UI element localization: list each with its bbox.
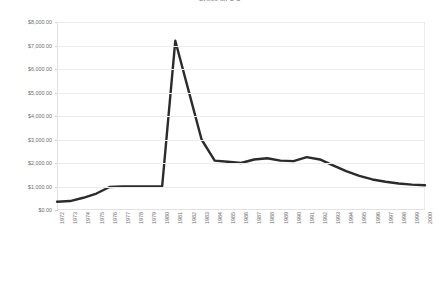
x-tick-label: 1974 xyxy=(85,212,91,224)
x-tick-label: 1984 xyxy=(217,212,223,224)
x-tick-label: 1985 xyxy=(230,212,236,224)
y-tick-label: $6,000.00 xyxy=(28,66,52,72)
gridline xyxy=(57,163,425,164)
x-tick-label: 1995 xyxy=(361,212,367,224)
line-chart: Gross MFG $ $8,000.00$7,000.00$6,000.00$… xyxy=(0,0,439,282)
x-tick-label: 1991 xyxy=(309,212,315,224)
y-tick-label: $0.00 xyxy=(39,207,53,213)
x-tick-label: 1993 xyxy=(335,212,341,224)
x-tick-label: 1980 xyxy=(164,212,170,224)
x-tick-label: 1994 xyxy=(348,212,354,224)
x-tick-label: 2000 xyxy=(427,212,433,224)
gridline xyxy=(57,46,425,47)
y-tick-label: $3,000.00 xyxy=(28,137,52,143)
x-tick-label: 1972 xyxy=(59,212,65,224)
x-tick-label: 1987 xyxy=(256,212,262,224)
y-tick-label: $1,000.00 xyxy=(28,184,52,190)
x-tick-label: 1996 xyxy=(375,212,381,224)
series-line xyxy=(57,41,425,202)
x-tick-label: 1988 xyxy=(269,212,275,224)
x-axis: 1972197319741975197619771978197919801981… xyxy=(57,212,425,272)
x-tick-label: 1983 xyxy=(204,212,210,224)
y-tick-label: $5,000.00 xyxy=(28,90,52,96)
x-tick-label: 1982 xyxy=(191,212,197,224)
gridline xyxy=(57,187,425,188)
y-tick-label: $4,000.00 xyxy=(28,113,52,119)
x-tick-label: 1973 xyxy=(72,212,78,224)
x-tick-label: 1990 xyxy=(296,212,302,224)
gridline xyxy=(57,69,425,70)
x-tick-label: 1998 xyxy=(401,212,407,224)
gridline xyxy=(57,140,425,141)
gridline xyxy=(57,22,425,23)
x-tick-label: 1978 xyxy=(138,212,144,224)
x-tick-label: 1977 xyxy=(125,212,131,224)
gridline xyxy=(57,93,425,94)
chart-title: Gross MFG $ xyxy=(0,0,439,3)
y-tick-label: $8,000.00 xyxy=(28,19,52,25)
x-tick-label: 1992 xyxy=(322,212,328,224)
y-tick-mark xyxy=(55,210,58,211)
x-tick-label: 1999 xyxy=(414,212,420,224)
x-tick-label: 1989 xyxy=(283,212,289,224)
y-tick-label: $2,000.00 xyxy=(28,160,52,166)
x-tick-label: 1981 xyxy=(177,212,183,224)
x-tick-label: 1979 xyxy=(151,212,157,224)
x-tick-label: 1986 xyxy=(243,212,249,224)
x-tick-label: 1976 xyxy=(112,212,118,224)
plot-area xyxy=(57,22,425,210)
gridline xyxy=(57,116,425,117)
x-tick-label: 1975 xyxy=(99,212,105,224)
x-tick-label: 1997 xyxy=(388,212,394,224)
y-tick-label: $7,000.00 xyxy=(28,43,52,49)
y-axis: $8,000.00$7,000.00$6,000.00$5,000.00$4,0… xyxy=(0,22,55,210)
